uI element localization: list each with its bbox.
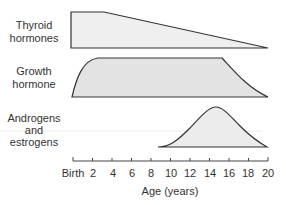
row-label-thyroid-line2: hormones [10,32,59,44]
tick-label: 10 [165,167,177,179]
x-tick-labels: Birth 2 4 6 8 10 12 14 16 18 20 [62,167,274,179]
tick-label: 20 [262,167,274,179]
tick-label: 6 [129,167,135,179]
tick-label: 8 [148,167,154,179]
row-label-androgens-line3: estrogens [10,136,59,148]
row-label-growth-line2: hormone [12,78,55,90]
tick-label: 18 [242,167,254,179]
row-label-thyroid-line1: Thyroid [16,19,53,31]
tick-label: 12 [184,167,196,179]
tick-label: 14 [204,167,216,179]
tick-label: 2 [90,167,96,179]
growth-hormone-area [72,58,268,97]
androgens-estrogens-area [158,107,267,147]
x-axis [73,157,268,161]
x-axis-label: Age (years) [142,185,199,197]
thyroid-hormones-area [71,12,268,48]
row-label-androgens-line1: Androgens [7,112,61,124]
row-label-androgens-line2: and [25,124,43,136]
tick-label: 4 [110,167,116,179]
tick-label: 16 [223,167,235,179]
tick-label: Birth [62,167,85,179]
row-label-growth-line1: Growth [16,65,51,77]
hormone-diagram: Birth 2 4 6 8 10 12 14 16 18 20 Age (yea… [0,0,286,205]
